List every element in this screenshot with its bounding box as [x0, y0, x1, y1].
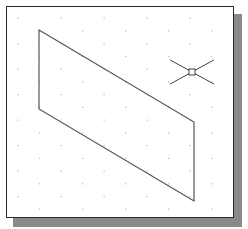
grid-dot — [82, 183, 83, 184]
grid-dot — [18, 69, 19, 70]
grid-dot — [125, 209, 126, 210]
grid-dot — [39, 158, 40, 159]
grid-dot — [147, 69, 148, 70]
grid-dot — [190, 94, 191, 95]
drawing-canvas[interactable] — [0, 0, 248, 229]
grid-dot — [125, 132, 126, 133]
grid-dot — [104, 145, 105, 146]
grid-dot — [190, 145, 191, 146]
grid-dot — [82, 132, 83, 133]
grid-dot — [211, 183, 212, 184]
grid-dot — [61, 18, 62, 19]
grid-dot — [82, 30, 83, 31]
grid-dot — [168, 81, 169, 82]
grid-dot — [39, 209, 40, 210]
grid-dot — [61, 94, 62, 95]
grid-dot — [168, 183, 169, 184]
grid-dot — [125, 56, 126, 57]
grid-dot — [104, 94, 105, 95]
grid-dot — [61, 196, 62, 197]
grid-dot — [168, 56, 169, 57]
grid-dot — [61, 171, 62, 172]
grid-dot — [168, 30, 169, 31]
grid-dot — [39, 183, 40, 184]
grid-dot — [211, 158, 212, 159]
grid-dot — [18, 18, 19, 19]
grid-dot — [147, 145, 148, 146]
grid-dot — [18, 196, 19, 197]
grid-dot — [147, 171, 148, 172]
grid-dot — [61, 145, 62, 146]
parallelogram-shape[interactable] — [39, 30, 194, 201]
grid-dot — [190, 196, 191, 197]
grid-dot — [82, 209, 83, 210]
grid-dot — [104, 171, 105, 172]
pickbox-icon — [189, 69, 195, 75]
grid-dot — [168, 158, 169, 159]
grid-dot — [125, 183, 126, 184]
grid-dot — [104, 18, 105, 19]
grid-dot — [211, 56, 212, 57]
grid-dot — [61, 69, 62, 70]
grid-dot — [147, 43, 148, 44]
grid-dot — [168, 209, 169, 210]
grid-dot — [125, 158, 126, 159]
crosshair-cursor-icon — [170, 60, 214, 84]
grid-dot — [39, 132, 40, 133]
grid-dot — [61, 120, 62, 121]
grid-dot — [211, 30, 212, 31]
grid-dot — [104, 43, 105, 44]
grid-dot — [211, 209, 212, 210]
grid-dot — [190, 18, 191, 19]
drawing-area — [0, 0, 248, 229]
grid-dot — [211, 107, 212, 108]
grid-dot — [211, 132, 212, 133]
grid-dot — [18, 145, 19, 146]
grid-dot — [147, 120, 148, 121]
grid-dot — [147, 196, 148, 197]
grid-dot — [125, 107, 126, 108]
grid-dot — [125, 30, 126, 31]
grid-dot — [82, 158, 83, 159]
grid-dot — [18, 43, 19, 44]
grid-dot — [104, 120, 105, 121]
grid-dot — [104, 196, 105, 197]
grid-dot — [147, 18, 148, 19]
grid-dot — [168, 132, 169, 133]
grid-dot — [190, 43, 191, 44]
grid-dot — [190, 171, 191, 172]
grid-dot — [18, 171, 19, 172]
grid-dot — [18, 120, 19, 121]
grid-dot — [82, 81, 83, 82]
grid-dot — [18, 94, 19, 95]
grid-dot — [82, 107, 83, 108]
